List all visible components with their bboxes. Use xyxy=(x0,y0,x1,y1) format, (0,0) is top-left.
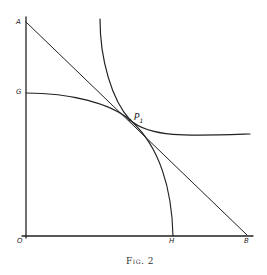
diagram-canvas xyxy=(0,0,267,275)
label-A: A xyxy=(16,19,21,26)
label-P1-subscript: 1 xyxy=(139,117,143,124)
figure-caption: Fig. 2 xyxy=(0,256,267,266)
label-H: H xyxy=(169,238,174,245)
label-P1: P1 xyxy=(134,113,143,124)
point-P1 xyxy=(129,119,132,122)
concave-curve-GH xyxy=(26,93,173,236)
straight-line-AB xyxy=(26,22,247,235)
label-G: G xyxy=(16,89,21,96)
label-O: O xyxy=(17,238,23,245)
convex-curve xyxy=(100,19,250,135)
label-B: B xyxy=(244,238,249,245)
